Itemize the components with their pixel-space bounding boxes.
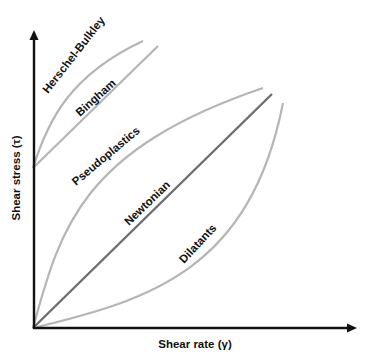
newtonian-line bbox=[33, 94, 272, 328]
newtonian-label: Newtonian bbox=[122, 178, 172, 227]
dilatants-curve bbox=[33, 103, 283, 328]
x-axis-arrow-icon bbox=[347, 324, 357, 333]
y-axis-arrow-icon bbox=[30, 30, 39, 40]
herschel-bulkley-label: Herschel-Bulkley bbox=[40, 14, 107, 95]
rheology-diagram: Shear rate (γ) Shear stress (τ) Herschel… bbox=[0, 0, 367, 361]
bingham-line bbox=[33, 46, 158, 168]
pseudoplastics-label: Pseudoplastics bbox=[70, 124, 142, 187]
x-axis-label: Shear rate (γ) bbox=[158, 338, 232, 350]
y-axis-label: Shear stress (τ) bbox=[10, 135, 22, 220]
dilatants-label: Dilatants bbox=[177, 222, 219, 266]
